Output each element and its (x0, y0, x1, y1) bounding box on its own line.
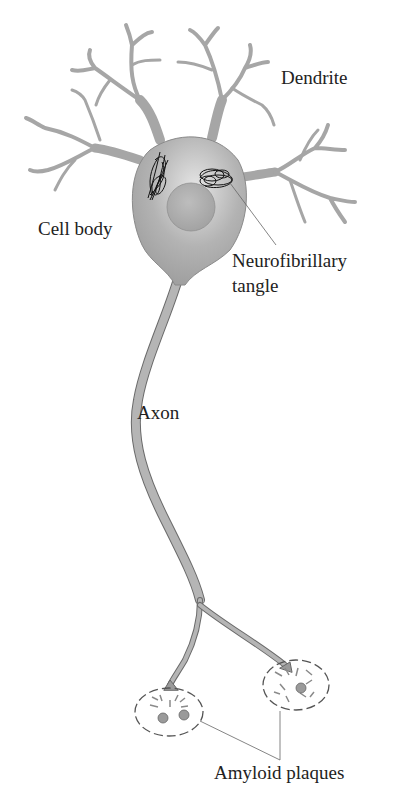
plaque-left (135, 688, 203, 736)
nucleus (167, 183, 215, 231)
label-dendrite: Dendrite (281, 67, 347, 89)
label-axon: Axon (137, 402, 179, 424)
label-amyloid-plaques: Amyloid plaques (214, 762, 344, 784)
label-neurofibrillary-tangle-line2: tangle (232, 275, 278, 297)
label-cell-body: Cell body (38, 218, 112, 240)
label-neurofibrillary-tangle-line1: Neurofibrillary (232, 250, 347, 272)
amyloid-plaques (135, 660, 329, 736)
plaque-right (263, 660, 329, 710)
axon-terminals (164, 600, 292, 690)
axon (136, 272, 200, 600)
neuron-diagram (0, 0, 393, 790)
